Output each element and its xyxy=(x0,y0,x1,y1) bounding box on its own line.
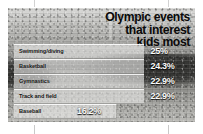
crop-mark-bottom-right xyxy=(168,125,169,134)
infographic-frame: Olympic events that interest kids most S… xyxy=(0,0,203,134)
bar-row: Track and field 22.9% xyxy=(14,89,189,104)
bar-chart: Swimming/diving 25% Basketball 24.3% Gym… xyxy=(14,44,189,119)
bar-category-label: Gymnastics xyxy=(19,78,50,84)
bar-category-label: Basketball xyxy=(19,63,46,69)
bar-row: Gymnastics 22.9% xyxy=(14,74,189,89)
crop-mark-top-left xyxy=(34,0,35,7)
mat-top xyxy=(0,0,203,8)
bar-value-label: 16.2% xyxy=(77,106,101,116)
bar-category-label: Baseball xyxy=(19,108,41,114)
mat-bottom xyxy=(0,122,203,134)
bar-row: Swimming/diving 25% xyxy=(14,44,189,59)
bar-value-label: 22.9% xyxy=(151,76,175,86)
crop-mark-bottom-left xyxy=(34,125,35,134)
bar-value-label: 25% xyxy=(151,46,168,56)
crop-mark-top-right xyxy=(168,0,169,7)
bar-category-label: Swimming/diving xyxy=(19,48,64,54)
mat-right xyxy=(195,0,203,134)
mat-left xyxy=(0,0,8,134)
bar-row: Baseball 16.2% xyxy=(14,104,189,119)
chart-title: Olympic events that interest kids most xyxy=(91,11,190,49)
bar-category-label: Track and field xyxy=(19,93,57,99)
photo-background-plate: Olympic events that interest kids most S… xyxy=(8,8,195,122)
bar-row: Basketball 24.3% xyxy=(14,59,189,74)
bar-value-label: 22.9% xyxy=(151,91,175,101)
bar-value-label: 24.3% xyxy=(151,61,175,71)
